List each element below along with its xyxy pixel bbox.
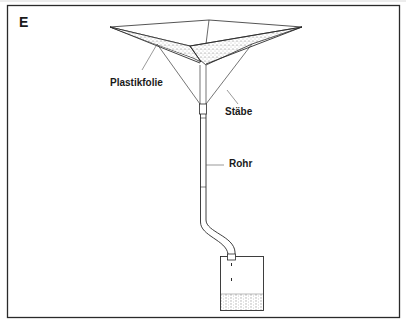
diagram-drawing	[0, 0, 406, 324]
rain-collector-diagram: E Plastikfolie Stäbe Rohr	[0, 0, 406, 324]
label-plastic-sheet: Plastikfolie	[110, 78, 163, 88]
pipe	[200, 114, 235, 258]
collection-container	[221, 254, 264, 311]
funnel-sheet	[110, 20, 302, 65]
label-rods: Stäbe	[225, 107, 252, 117]
leader-lines	[142, 46, 238, 165]
label-pipe: Rohr	[229, 159, 252, 169]
collected-water	[221, 294, 263, 310]
pipe-coupler	[200, 104, 207, 114]
panel-letter: E	[19, 15, 28, 29]
